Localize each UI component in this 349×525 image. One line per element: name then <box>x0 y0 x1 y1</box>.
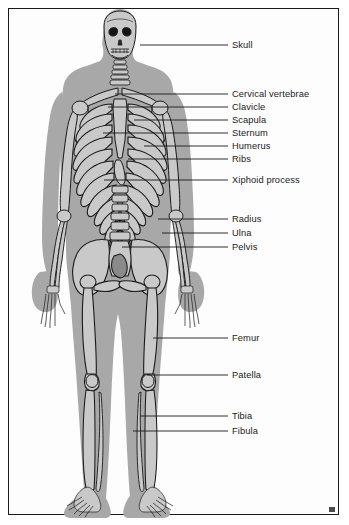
label-skull: Skull <box>232 41 253 50</box>
skull-bone <box>104 11 136 59</box>
foot-bones <box>67 487 173 517</box>
label-femur: Femur <box>232 334 259 343</box>
sternum-bone <box>113 99 127 185</box>
label-scapula: Scapula <box>232 116 266 125</box>
label-pelvis: Pelvis <box>232 243 257 252</box>
label-radius: Radius <box>232 215 262 224</box>
scan-artifact-mark <box>329 507 335 512</box>
label-fibula: Fibula <box>232 427 258 436</box>
skeleton-illustration <box>0 0 349 525</box>
label-cervical-vertebrae: Cervical vertebrae <box>232 90 309 99</box>
label-humerus: Humerus <box>232 142 270 151</box>
label-ulna: Ulna <box>232 229 252 238</box>
label-clavicle: Clavicle <box>232 103 265 112</box>
label-tibia: Tibia <box>232 412 252 421</box>
skeleton-figure: SkullCervical vertebraeClavicleScapulaSt… <box>0 0 349 525</box>
label-patella: Patella <box>232 371 261 380</box>
label-xiphoid-process: Xiphoid process <box>232 176 300 185</box>
patella-bone <box>86 375 154 388</box>
label-ribs: Ribs <box>232 155 251 164</box>
tibia-bone <box>83 390 157 492</box>
label-sternum: Sternum <box>232 129 268 138</box>
